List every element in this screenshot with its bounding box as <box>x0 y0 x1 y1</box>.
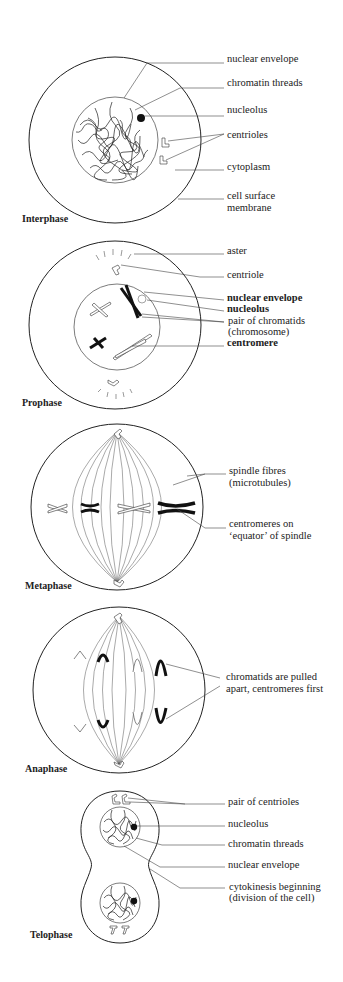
chromosome-outline-2 <box>118 503 150 514</box>
chromatin-threads-lower <box>103 886 136 920</box>
label-pair-of-centrioles: pair of centrioles <box>228 796 299 807</box>
chromatid-black-lower-2 <box>156 708 166 723</box>
chromosome-outline-small <box>90 302 111 317</box>
chromosome-outline-1 <box>48 504 67 513</box>
label-cytokinesis-beginning: cytokinesis beginning <box>229 881 322 892</box>
label-nucleolus: nucleolus <box>227 104 267 115</box>
chromosome-black-long <box>121 285 141 318</box>
label-chromatids-pulled: chromatids are pulled <box>226 671 318 682</box>
centriole-top <box>112 265 120 275</box>
centriole-bottom <box>114 580 124 587</box>
label-nuclear-envelope: nuclear envelope <box>227 292 303 303</box>
spindle-fibres <box>84 616 155 764</box>
metaphase-figure <box>31 424 226 590</box>
centriole-bottom <box>114 761 124 768</box>
label-equator-of-spindle: ‘equator’ of spindle <box>229 530 312 541</box>
label-microtubules: (microtubules) <box>229 477 291 489</box>
telophase-figure <box>81 791 225 943</box>
cell-membrane-dividing <box>81 791 159 943</box>
chromosome-black-1 <box>81 504 99 512</box>
label-centromere: centromere <box>227 337 278 348</box>
aster-top <box>96 249 131 260</box>
label-cytoplasm: cytoplasm <box>227 161 270 172</box>
label-centrioles: centrioles <box>227 129 268 140</box>
label-aster: aster <box>227 245 247 256</box>
centrioles-upper <box>112 794 130 804</box>
nucleolus <box>137 114 145 122</box>
label-chromatin-threads: chromatin threads <box>227 77 303 88</box>
centriole-bottom <box>108 380 119 386</box>
chromatid-black-lower-1 <box>98 720 108 727</box>
chromatid-black-upper-1 <box>98 655 108 662</box>
mitosis-diagram: nuclear envelope chromatin threads nucle… <box>0 0 343 982</box>
stage-title-interphase: Interphase <box>22 213 69 224</box>
chromatid-black-upper-2 <box>156 661 166 676</box>
chromatin-threads <box>76 102 148 180</box>
chromatid-outline-lower-2 <box>133 712 142 725</box>
chromatid-outline-upper-1 <box>74 651 86 659</box>
nucleolus-lower <box>131 898 137 904</box>
label-chromatin-threads: chromatin threads <box>228 838 304 849</box>
prophase-figure <box>29 241 224 409</box>
chromatid-outline-lower-1 <box>74 724 86 732</box>
cell-membrane <box>33 607 205 773</box>
label-nuclear-envelope: nuclear envelope <box>228 859 300 870</box>
chromosome-black-2 <box>158 503 195 513</box>
chromatid-outline-upper-2 <box>133 659 142 672</box>
nucleolus-upper <box>131 824 137 830</box>
label-centromeres-on: centromeres on <box>229 518 294 529</box>
label-cell-surface: cell surface <box>227 190 275 201</box>
centrioles-lower <box>110 926 129 934</box>
aster-bottom <box>98 389 132 399</box>
anaphase-figure <box>33 607 220 773</box>
nucleolus <box>138 295 146 303</box>
label-centromeres-first: apart, centromeres first <box>226 683 323 694</box>
stage-title-prophase: Prophase <box>22 397 62 408</box>
label-spindle-fibres: spindle fibres <box>229 465 286 476</box>
stage-title-metaphase: Metaphase <box>25 580 72 591</box>
label-nuclear-envelope: nuclear envelope <box>227 53 299 64</box>
label-division-of-cell: (division of the cell) <box>229 892 315 904</box>
centrioles <box>160 138 169 164</box>
chromosome-black-small <box>90 338 106 348</box>
label-nucleolus: nucleolus <box>227 303 269 314</box>
chromosome-outline-long <box>113 334 152 360</box>
label-pair-of-chromatids: pair of chromatids <box>228 315 305 326</box>
nucleus <box>72 97 158 183</box>
label-nucleolus: nucleolus <box>228 818 268 829</box>
label-centriole: centriole <box>227 269 264 280</box>
label-membrane: membrane <box>227 202 272 213</box>
stage-title-anaphase: Anaphase <box>25 763 68 774</box>
interphase-figure <box>29 57 224 223</box>
stage-title-telophase: Telophase <box>30 929 73 940</box>
